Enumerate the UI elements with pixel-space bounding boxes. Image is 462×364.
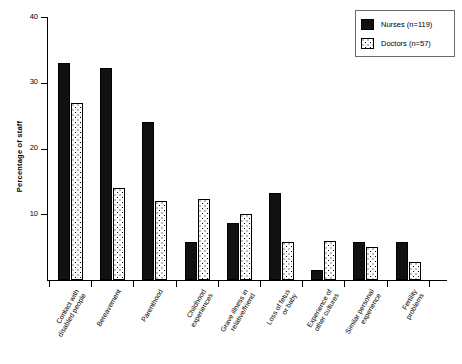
legend-label-doctors: Doctors (n=57)	[381, 39, 431, 48]
y-tick-label: 20	[30, 143, 38, 152]
chart-figure: Percentage of staff 10203040 Contact wit…	[0, 0, 462, 364]
bar-nurses-2	[142, 122, 154, 280]
bar-nurses-4	[227, 223, 239, 280]
legend-swatch-nurses	[361, 19, 374, 30]
bar-doctors-8	[409, 262, 421, 280]
bar-doctors-6	[324, 241, 336, 280]
y-tick-label: 40	[30, 12, 38, 21]
legend-swatch-doctors	[361, 38, 374, 49]
y-axis-title: Percentage of staff	[15, 87, 24, 227]
legend-label-nurses: Nurses (n=119)	[381, 20, 432, 29]
y-tick-40: 40	[41, 17, 48, 18]
bar-doctors-7	[366, 247, 378, 280]
x-tick	[49, 281, 50, 287]
y-tick-10: 10	[41, 214, 48, 215]
bar-nurses-3	[185, 242, 197, 280]
bar-doctors-4	[240, 214, 252, 280]
bar-doctors-1	[113, 188, 125, 280]
legend-item-doctors: Doctors (n=57)	[361, 35, 448, 51]
bar-nurses-7	[353, 242, 365, 280]
x-tick	[302, 281, 303, 287]
bar-nurses-0	[58, 63, 70, 280]
x-tick	[387, 281, 388, 287]
x-tick	[133, 281, 134, 287]
y-tick-30: 30	[41, 83, 48, 84]
bar-doctors-2	[155, 201, 167, 280]
y-tick-label: 30	[30, 77, 38, 86]
bar-doctors-0	[71, 103, 83, 280]
x-tick	[260, 281, 261, 287]
bar-nurses-5	[269, 193, 281, 280]
legend-item-nurses: Nurses (n=119)	[361, 16, 448, 32]
bar-nurses-6	[311, 270, 323, 280]
y-tick-label: 10	[30, 209, 38, 218]
bar-nurses-1	[100, 68, 112, 280]
x-tick	[218, 281, 219, 287]
x-tick	[91, 281, 92, 287]
bar-doctors-3	[198, 199, 210, 280]
x-tick	[429, 281, 430, 287]
x-tick	[176, 281, 177, 287]
x-axis-label-2: Parenthood	[115, 288, 165, 364]
chart-legend: Nurses (n=119) Doctors (n=57)	[355, 10, 455, 57]
x-tick	[344, 281, 345, 287]
bar-nurses-8	[396, 242, 408, 280]
y-tick-20: 20	[41, 149, 48, 150]
bar-doctors-5	[282, 242, 294, 280]
